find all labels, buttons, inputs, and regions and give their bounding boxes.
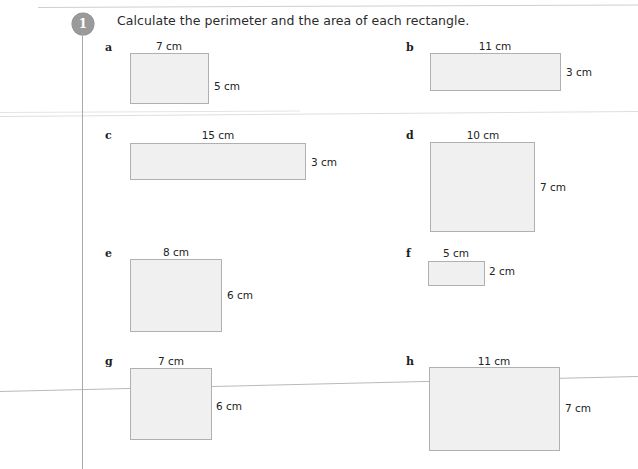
height-label-d: 7 cm xyxy=(540,181,566,193)
width-label-g: 7 cm xyxy=(158,355,184,367)
width-label-c: 15 cm xyxy=(202,129,235,141)
height-label-c: 3 cm xyxy=(311,156,337,168)
item-letter-b: b xyxy=(406,41,414,54)
scan-line-top xyxy=(38,4,638,8)
width-label-d: 10 cm xyxy=(467,129,500,141)
height-label-a: 5 cm xyxy=(214,80,240,92)
rectangle-a xyxy=(130,53,209,104)
rectangle-c xyxy=(130,143,306,180)
item-letter-c: c xyxy=(105,129,112,142)
rectangle-e xyxy=(130,259,222,332)
rectangle-b xyxy=(430,53,561,91)
rectangle-f xyxy=(428,261,485,286)
width-label-h: 11 cm xyxy=(478,355,511,367)
height-label-h: 7 cm xyxy=(565,402,591,414)
question-stem-line xyxy=(82,33,83,469)
item-letter-a: a xyxy=(105,41,112,54)
item-letter-f: f xyxy=(406,247,411,260)
width-label-a: 7 cm xyxy=(156,40,182,52)
question-number-badge: 1 xyxy=(72,13,94,35)
rectangle-d xyxy=(430,142,535,232)
item-letter-h: h xyxy=(406,355,414,368)
width-label-f: 5 cm xyxy=(443,247,469,259)
width-label-e: 8 cm xyxy=(163,246,189,258)
rectangle-g xyxy=(130,368,212,440)
width-label-b: 11 cm xyxy=(479,40,512,52)
item-letter-d: d xyxy=(406,129,414,142)
height-label-b: 3 cm xyxy=(566,66,592,78)
worksheet-page: 1 Calculate the perimeter and the area o… xyxy=(0,0,638,469)
rectangle-h xyxy=(429,367,560,451)
height-label-e: 6 cm xyxy=(227,289,253,301)
scan-line-middle-left xyxy=(0,110,300,113)
height-label-g: 6 cm xyxy=(216,400,242,412)
item-letter-g: g xyxy=(105,355,113,368)
item-letter-e: e xyxy=(105,247,112,260)
height-label-f: 2 cm xyxy=(489,265,515,277)
question-title: Calculate the perimeter and the area of … xyxy=(117,13,469,28)
